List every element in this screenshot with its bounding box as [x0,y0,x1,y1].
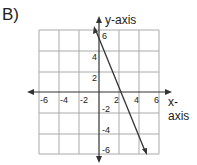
y-tick: 6 [102,31,107,41]
x-axis-label: x-axis [168,95,197,123]
y-tick: -2 [102,104,110,114]
x-tick: 2 [114,95,119,105]
x-tick: -2 [80,95,88,105]
y-axis-down-arrow-icon [96,156,102,163]
y-tick: -4 [102,125,110,135]
y-tick: 2 [92,73,97,83]
y-tick: 4 [92,52,97,62]
y-axis-up-arrow-icon [96,16,102,23]
x-axis-left-arrow-icon [27,89,34,95]
x-tick: 6 [154,95,159,105]
x-tick: 4 [134,95,139,105]
y-axis-label: y-axis [105,13,136,27]
chart-plot [0,0,197,165]
x-tick: -6 [40,95,48,105]
y-tick: -6 [102,145,110,155]
x-tick: -4 [60,95,68,105]
